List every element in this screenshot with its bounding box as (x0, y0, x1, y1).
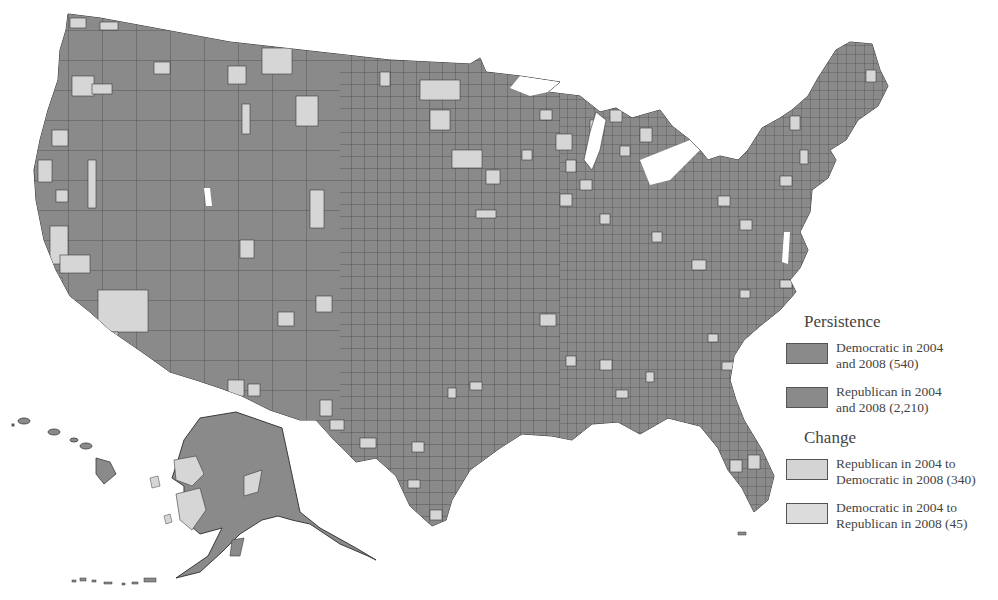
legend-label-line1: Democratic in 2004 to (836, 500, 968, 516)
alaska (72, 412, 376, 585)
map-legend: Persistence Democratic in 2004 and 2008 … (786, 312, 996, 544)
legend-heading-change: Change (804, 428, 996, 448)
legend-label-line2: Democratic in 2008 (340) (836, 472, 976, 488)
contiguous-us (30, 10, 900, 530)
legend-item-dem-to-rep: Democratic in 2004 to Republican in 2008… (786, 500, 996, 532)
legend-label-line2: and 2008 (2,210) (836, 400, 942, 416)
legend-label-line2: Republican in 2008 (45) (836, 516, 968, 532)
legend-heading-persistence: Persistence (804, 312, 996, 332)
legend-label-line1: Republican in 2004 (836, 384, 942, 400)
legend-item-rep-to-dem: Republican in 2004 to Democratic in 2008… (786, 456, 996, 488)
swatch-republican-persist (786, 387, 828, 408)
legend-label-line1: Democratic in 2004 (836, 340, 943, 356)
swatch-democratic-persist (786, 343, 828, 364)
hawaii (12, 418, 116, 484)
aleutian-islands (72, 578, 156, 585)
legend-label-line1: Republican in 2004 to (836, 456, 976, 472)
swatch-rep-to-dem (786, 459, 828, 480)
legend-item-republican-persist: Republican in 2004 and 2008 (2,210) (786, 384, 996, 416)
legend-label-line2: and 2008 (540) (836, 356, 943, 372)
legend-item-democratic-persist: Democratic in 2004 and 2008 (540) (786, 340, 996, 372)
swatch-dem-to-rep (786, 503, 828, 524)
